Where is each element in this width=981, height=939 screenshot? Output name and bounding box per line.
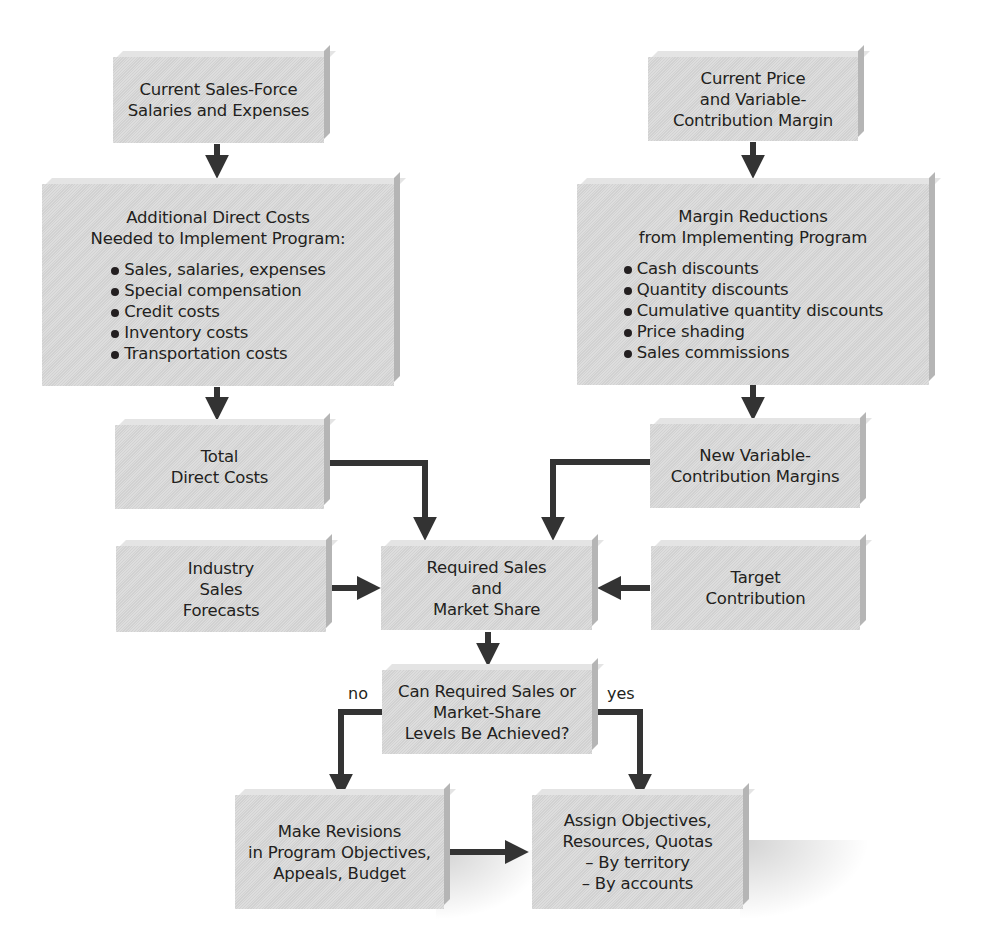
node-new-margins: New Variable- Contribution Margins [650, 424, 860, 508]
node-title: New Variable- Contribution Margins [671, 445, 840, 487]
node-current-price: Current Price and Variable- Contribution… [648, 57, 858, 141]
node-title: Current Price and Variable- Contribution… [673, 68, 833, 131]
node-assign-objectives: Assign Objectives, Resources, Quotas – B… [532, 795, 743, 909]
node-additional-direct-costs: Additional Direct Costs Needed to Implem… [42, 184, 394, 386]
node-make-revisions: Make Revisions in Program Objectives, Ap… [235, 795, 444, 909]
list-item: Quantity discounts [623, 279, 883, 300]
list-item: Cumulative quantity discounts [623, 300, 883, 321]
list-item: Sales, salaries, expenses [110, 259, 325, 280]
node-required-sales: Required Sales and Market Share [381, 546, 592, 630]
list-item: Special compensation [110, 280, 325, 301]
node-title: Industry Sales Forecasts [183, 558, 260, 621]
reduction-list: Cash discounts Quantity discounts Cumula… [623, 258, 883, 363]
node-margin-reductions: Margin Reductions from Implementing Prog… [577, 184, 929, 385]
node-title: Total Direct Costs [171, 446, 269, 488]
list-item: Price shading [623, 321, 883, 342]
list-item: Inventory costs [110, 322, 325, 343]
node-title: Assign Objectives, Resources, Quotas – B… [562, 810, 712, 894]
list-item: Cash discounts [623, 258, 883, 279]
cost-list: Sales, salaries, expenses Special compen… [110, 259, 325, 364]
shadow-make-revisions [436, 850, 546, 920]
node-total-direct-costs: Total Direct Costs [115, 425, 324, 509]
edge-label-yes: yes [607, 684, 635, 703]
node-decision: Can Required Sales or Market-Share Level… [382, 670, 592, 754]
node-target-contribution: Target Contribution [651, 546, 860, 630]
node-current-salesforce: Current Sales-Force Salaries and Expense… [113, 57, 324, 143]
node-title: Can Required Sales or Market-Share Level… [398, 681, 576, 744]
node-industry-forecasts: Industry Sales Forecasts [116, 546, 326, 632]
list-item: Credit costs [110, 301, 325, 322]
list-item: Transportation costs [110, 343, 325, 364]
node-title: Current Sales-Force Salaries and Expense… [128, 79, 309, 121]
node-title: Target Contribution [705, 567, 805, 609]
node-title: Make Revisions in Program Objectives, Ap… [248, 821, 431, 884]
edge-label-no: no [348, 684, 368, 703]
list-item: Sales commissions [623, 342, 883, 363]
node-title: Margin Reductions from Implementing Prog… [639, 206, 867, 248]
shadow-assign-objectives [740, 840, 870, 920]
node-title: Additional Direct Costs Needed to Implem… [91, 207, 346, 249]
node-title: Required Sales and Market Share [427, 557, 547, 620]
